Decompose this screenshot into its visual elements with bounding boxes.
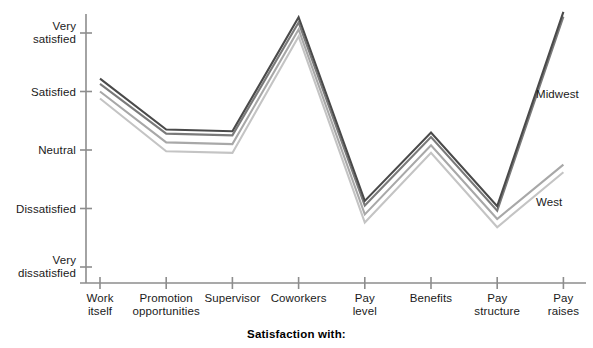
y-axis-tick-label: Verydissatisfied <box>0 254 76 279</box>
axes <box>80 14 586 283</box>
series-line <box>100 17 563 211</box>
series-line <box>100 12 563 206</box>
y-axis-tick-label: Verysatisfied <box>0 20 76 45</box>
y-axis-tick-label: Neutral <box>0 144 76 157</box>
series-line <box>100 30 563 220</box>
y-axis-tick-label: Dissatisfied <box>0 203 76 216</box>
x-axis-title: Satisfaction with: <box>0 328 593 340</box>
series-line <box>100 37 563 228</box>
series-label-west: West <box>536 196 562 208</box>
y-axis-tick-label: Satisfied <box>0 86 76 99</box>
satisfaction-line-chart: VerysatisfiedSatisfiedNeutralDissatisfie… <box>0 0 593 348</box>
series-label-midwest: Midwest <box>536 88 579 100</box>
x-axis-tick-label: Payraises <box>508 292 593 317</box>
series-lines <box>100 12 563 227</box>
